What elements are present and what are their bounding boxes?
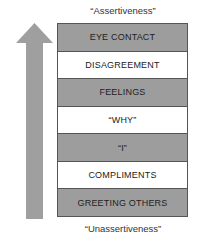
rung-label: GREETING OTHERS	[77, 198, 167, 208]
rung-feelings: FEELINGS	[58, 79, 187, 107]
rung-greeting-others: GREETING OTHERS	[58, 189, 187, 216]
rung-why: “WHY”	[58, 107, 187, 135]
assertiveness-ladder: EYE CONTACT DISAGREEMENT FEELINGS “WHY” …	[57, 23, 188, 217]
rung-label: EYE CONTACT	[90, 32, 156, 42]
rung-compliments: COMPLIMENTS	[58, 162, 187, 190]
rung-label: “WHY”	[109, 115, 137, 125]
rung-label: COMPLIMENTS	[88, 170, 156, 180]
up-arrow-icon	[16, 23, 53, 219]
rung-label: FEELINGS	[99, 87, 145, 97]
rung-i: “I”	[58, 134, 187, 162]
rung-disagreement: DISAGREEMENT	[58, 52, 187, 80]
rung-label: “I”	[118, 143, 127, 153]
top-label-assertiveness: “Assertiveness”	[57, 5, 189, 16]
rung-eye-contact: EYE CONTACT	[58, 24, 187, 52]
bottom-label-unassertiveness: “Unassertiveness”	[57, 223, 189, 234]
rung-label: DISAGREEMENT	[85, 60, 159, 70]
